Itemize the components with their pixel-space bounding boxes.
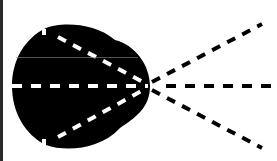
notch-top — [42, 29, 46, 35]
diagram-canvas — [0, 0, 277, 161]
upper-ray-outside — [152, 24, 262, 82]
faint-horizontal-line — [16, 57, 138, 58]
lower-ray-outside — [152, 90, 262, 148]
notch-bottom — [42, 139, 46, 145]
